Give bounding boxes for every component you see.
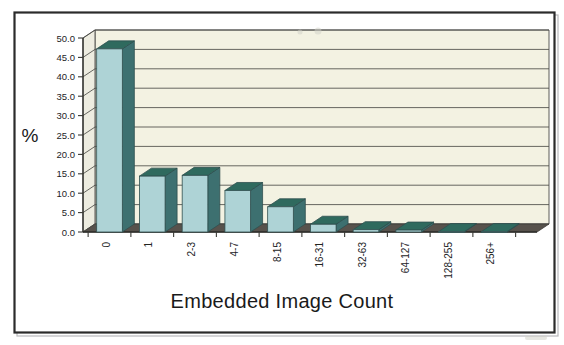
x-category-label: 16-31 bbox=[314, 242, 325, 268]
y-tick-label: 35.0 bbox=[57, 91, 76, 102]
x-category-label: 32-63 bbox=[357, 242, 368, 268]
bar-side-face bbox=[165, 168, 177, 232]
y-tick-label: 5.0 bbox=[62, 207, 75, 218]
bar-front-face bbox=[439, 232, 465, 233]
bar bbox=[182, 167, 220, 232]
x-category-label: 2-3 bbox=[186, 242, 197, 257]
bar bbox=[97, 41, 135, 232]
y-tick-label: 15.0 bbox=[57, 168, 76, 179]
y-tick-label: 40.0 bbox=[57, 71, 76, 82]
y-tick-label: 10.0 bbox=[57, 188, 76, 199]
x-category-label: 64-127 bbox=[400, 242, 411, 274]
bar-front-face bbox=[481, 232, 507, 233]
bar bbox=[139, 168, 177, 232]
bar-side-face bbox=[251, 182, 263, 232]
x-category-label: 8-15 bbox=[272, 242, 283, 262]
x-category-label: 128-255 bbox=[443, 242, 454, 279]
y-tick-label: 50.0 bbox=[57, 33, 76, 44]
chart-figure: 50.0 45.0 40.0 35.0 30.0 25.0 20.0 15.0 … bbox=[0, 0, 564, 345]
bar-front-face bbox=[182, 175, 208, 232]
bar bbox=[268, 199, 306, 232]
bar-front-face bbox=[310, 224, 336, 232]
x-axis-title: Embedded Image Count bbox=[171, 290, 394, 312]
y-tick-label: 25.0 bbox=[57, 130, 76, 141]
y-tick-label: 0.0 bbox=[62, 227, 75, 238]
x-category-label: 0 bbox=[101, 242, 112, 248]
x-category-label: 4-7 bbox=[229, 242, 240, 257]
x-category-label: 1 bbox=[143, 242, 154, 248]
y-axis-title: % bbox=[22, 125, 39, 146]
y-tick-label: 30.0 bbox=[57, 110, 76, 121]
x-category-label: 256+ bbox=[485, 242, 496, 265]
bar-front-face bbox=[225, 190, 251, 232]
bar-front-face bbox=[353, 230, 379, 232]
bar-front-face bbox=[396, 230, 422, 232]
bar-front-face bbox=[268, 207, 294, 232]
bar-front-face bbox=[139, 176, 165, 232]
bar-side-face bbox=[122, 41, 134, 232]
bar-side-face bbox=[208, 167, 220, 232]
bar-front-face bbox=[97, 49, 123, 232]
y-tick-label: 45.0 bbox=[57, 52, 76, 63]
bar bbox=[225, 182, 263, 232]
y-tick-label: 20.0 bbox=[57, 149, 76, 160]
